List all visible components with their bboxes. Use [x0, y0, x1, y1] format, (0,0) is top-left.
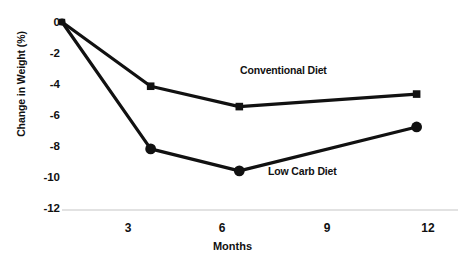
- data-point-marker: [413, 90, 421, 98]
- data-point-marker: [59, 19, 66, 26]
- data-point-marker: [234, 165, 245, 176]
- weight-change-line-chart: Change in Weight (%) 0 -2 -4 -6 -8 -10 -…: [0, 0, 465, 265]
- data-point-marker: [145, 144, 156, 155]
- x-axis-title: Months: [0, 240, 465, 252]
- series-label-low-carb-diet: Low Carb Diet: [268, 165, 337, 177]
- data-point-marker: [411, 122, 422, 133]
- data-point-marker: [147, 82, 155, 90]
- series-group: [59, 19, 422, 177]
- series-label-conventional-diet: Conventional Diet: [240, 64, 327, 76]
- data-point-marker: [236, 103, 244, 111]
- plot-area: [0, 0, 465, 265]
